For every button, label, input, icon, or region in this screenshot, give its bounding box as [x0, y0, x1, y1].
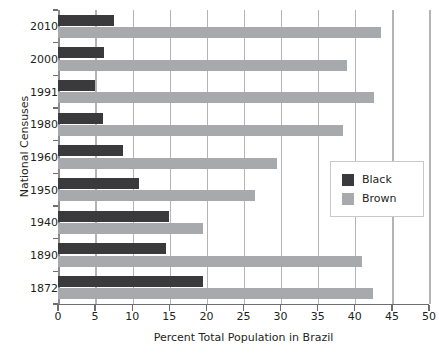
- bar-black-1890: [58, 243, 166, 254]
- bar-brown-1950: [58, 190, 255, 201]
- bar-black-1991: [58, 80, 95, 91]
- x-tick-label-5: 5: [92, 310, 99, 323]
- legend-label-black: Black: [362, 173, 392, 186]
- x-tick-label-40: 40: [348, 310, 362, 323]
- x-tick-label-50: 50: [422, 310, 436, 323]
- y-tick-label-1940: 1940: [30, 216, 58, 229]
- x-tick-label-45: 45: [385, 310, 399, 323]
- y-tick-label-2000: 2000: [30, 53, 58, 66]
- bar-brown-1890: [58, 256, 362, 267]
- y-tick-2000: [53, 42, 58, 43]
- y-tick-label-2010: 2010: [30, 20, 58, 33]
- y-tick-1991: [53, 75, 58, 76]
- x-tick-label-0: 0: [55, 310, 62, 323]
- y-tick-label-1991: 1991: [30, 85, 58, 98]
- bar-brown-1991: [58, 92, 374, 103]
- y-tick-1950: [53, 173, 58, 174]
- bar-black-1872: [58, 276, 203, 287]
- y-tick-1872: [53, 271, 58, 272]
- y-tick-1940: [53, 205, 58, 206]
- gridline-x-50: [429, 10, 430, 304]
- x-tick-label-35: 35: [311, 310, 325, 323]
- bar-brown-1872: [58, 288, 373, 299]
- legend-label-brown: Brown: [362, 192, 397, 205]
- legend-swatch-black-icon: [342, 174, 354, 186]
- legend-entry-brown: Brown: [342, 189, 423, 208]
- bar-black-1940: [58, 211, 169, 222]
- legend-swatch-brown-icon: [342, 193, 354, 205]
- x-tick-label-30: 30: [274, 310, 288, 323]
- x-tick-label-25: 25: [237, 310, 251, 323]
- x-tick-label-20: 20: [199, 310, 213, 323]
- bar-brown-2010: [58, 27, 381, 38]
- x-tick-label-15: 15: [162, 310, 176, 323]
- bar-black-1950: [58, 178, 139, 189]
- y-tick-label-1960: 1960: [30, 151, 58, 164]
- x-tick-label-10: 10: [125, 310, 139, 323]
- x-axis-title: Percent Total Population in Brazil: [58, 331, 429, 344]
- bar-black-1960: [58, 145, 123, 156]
- bar-brown-1980: [58, 125, 343, 136]
- y-tick-label-1890: 1890: [30, 249, 58, 262]
- bar-black-1980: [58, 113, 103, 124]
- y-tick-1980: [53, 107, 58, 108]
- bar-brown-1940: [58, 223, 203, 234]
- y-tick-2010: [53, 9, 58, 10]
- y-tick-1960: [53, 140, 58, 141]
- bar-chart: National Censuses Percent Total Populati…: [0, 0, 439, 354]
- y-tick-1890: [53, 238, 58, 239]
- y-axis-title: National Censuses: [18, 67, 31, 227]
- bar-brown-2000: [58, 60, 347, 71]
- gridline-x-45: [392, 10, 393, 304]
- bar-black-2000: [58, 47, 104, 58]
- legend: BlackBrown: [330, 161, 424, 217]
- legend-entry-black: Black: [342, 170, 423, 189]
- y-tick-label-1980: 1980: [30, 118, 58, 131]
- y-tick-label-1872: 1872: [30, 281, 58, 294]
- bar-black-2010: [58, 15, 114, 26]
- y-tick-label-1950: 1950: [30, 183, 58, 196]
- bar-brown-1960: [58, 158, 277, 169]
- y-tick-end: [53, 303, 58, 304]
